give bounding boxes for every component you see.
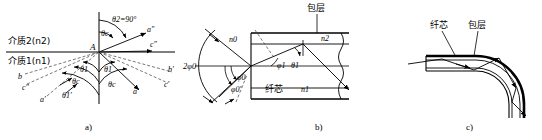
label-theta-c-upper: θc: [101, 29, 109, 38]
panel-a: 介质2(n2) 介质1(n1) A θ2=90° θc a″ c″ θ1 θc …: [0, 0, 180, 140]
caption-b: b): [315, 122, 323, 132]
label-n1: n1: [301, 85, 309, 94]
label-n2: n2: [321, 34, 329, 43]
label-ray-c-right: c′: [164, 80, 170, 89]
ray-arrow-mid: [456, 64, 470, 68]
label-theta2: θ2=90°: [112, 15, 137, 24]
fiber-core-inner: [426, 68, 512, 118]
figure-root: 介质2(n2) 介质1(n1) A θ2=90° θc a″ c″ θ1 θc …: [0, 0, 542, 140]
label-ray-c-left: c″: [22, 83, 30, 92]
incident-ray-a: [47, 52, 99, 96]
cone-ray-upper: [205, 29, 251, 66]
label-theta-c-right: θc: [108, 80, 116, 89]
panel-b: φ1 θ1 2φ0 φ0 φ0′ n0 n2 n1 纤芯 包层 b): [181, 0, 366, 140]
medium1-label: 介质1(n1): [8, 55, 50, 66]
label-cladding-c: 包层: [468, 19, 486, 30]
ray-seg-1: [408, 59, 442, 64]
label-cone-angle: 2φ0: [183, 61, 197, 71]
label-cladding-b: 包层: [307, 2, 325, 13]
label-theta-c-left: θc: [72, 77, 80, 86]
ray-seg-5: [512, 88, 516, 102]
cladding-leader-c: [474, 31, 478, 56]
label-phi0-prime: φ0′: [231, 85, 241, 94]
label-theta1-prime-left: θ1′: [62, 91, 72, 100]
arc-theta1-b: [295, 48, 300, 56]
arrow-incident-1: [60, 78, 72, 85]
label-theta1-right: θ1: [104, 65, 112, 74]
label-ray-c-dprime: c″: [150, 40, 158, 49]
panel-c: 纤芯 包层 c): [366, 0, 542, 140]
entry-dashed-normal: [255, 30, 273, 56]
label-theta1-left: θ1: [80, 65, 88, 74]
label-ray-a-dprime: a″: [147, 25, 155, 34]
label-ray-a-left: a′: [40, 95, 46, 104]
vertex-label-A: A: [89, 42, 96, 52]
fiber-inner-wall: [426, 71, 509, 118]
caption-c: c): [466, 122, 473, 132]
label-ray-a-right: a′: [133, 87, 139, 96]
label-n0: n0: [229, 35, 237, 44]
arrow-cone-upper: [209, 34, 219, 42]
label-phi0: φ0: [237, 73, 245, 82]
label-phi1: φ1: [277, 61, 285, 70]
label-ray-b-left: b: [18, 72, 22, 81]
caption-a: a): [85, 122, 92, 132]
label-core-c: 纤芯: [430, 19, 448, 30]
label-core-b: 纤芯: [265, 83, 283, 94]
label-theta1-b: θ1: [291, 61, 299, 70]
label-ray-b-right: b′: [168, 65, 174, 74]
arrow-cone-inner: [225, 99, 234, 104]
medium2-label: 介质2(n2): [8, 35, 50, 46]
core-leader-c: [442, 31, 456, 57]
